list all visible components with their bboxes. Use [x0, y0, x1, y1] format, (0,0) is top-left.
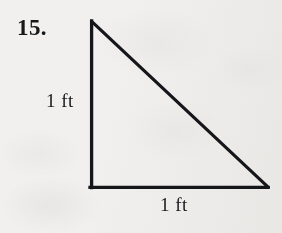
hypotenuse-line — [92, 21, 269, 187]
vertical-leg-measure-label: 1 ft — [46, 91, 74, 110]
figure-page: 15. 1 ft 1 ft — [0, 0, 282, 233]
triangle-outline — [90, 21, 268, 188]
horizontal-leg-measure-label: 1 ft — [160, 195, 188, 214]
item-number-label: 15. — [17, 16, 47, 39]
